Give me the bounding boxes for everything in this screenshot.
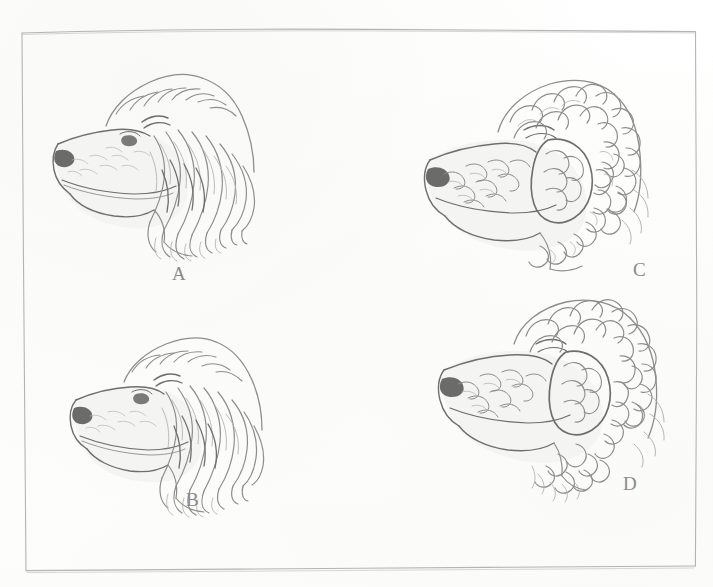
figure-b bbox=[62, 324, 292, 524]
figure-label-c: C bbox=[633, 260, 646, 279]
figure-label-a: A bbox=[172, 264, 186, 283]
figure-d bbox=[432, 294, 682, 509]
figure-label-b: B bbox=[186, 490, 199, 509]
figure-a bbox=[46, 52, 286, 267]
figure-label-d: D bbox=[623, 474, 637, 493]
plate-page: A bbox=[0, 0, 713, 587]
figure-c bbox=[418, 62, 668, 277]
